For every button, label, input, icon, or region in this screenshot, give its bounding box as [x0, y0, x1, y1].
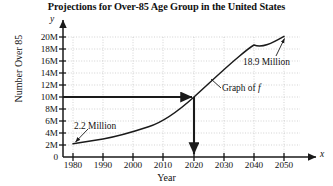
annotation-graph-of-f: Graph of f — [222, 83, 261, 93]
x-axis-symbol: x — [320, 149, 324, 159]
y-axis-symbol: y — [50, 14, 54, 24]
y-tick-10m: 10M — [18, 92, 58, 103]
y-tick-18m: 18M — [18, 44, 58, 55]
y-tick-8m: 8M — [18, 104, 58, 115]
annotation-2-2-million: 2.2 Million — [74, 121, 116, 131]
y-tick-14m: 14M — [18, 68, 58, 79]
y-tick-0: 0 — [18, 152, 58, 163]
x-tick-2050: 2050 — [264, 160, 304, 170]
y-tick-4m: 4M — [18, 128, 58, 139]
annotation-leader-graph-of-f — [211, 79, 221, 88]
chart-figure: Projections for Over-85 Age Group in the… — [0, 0, 333, 186]
annotation-graph-of-f-text: Graph of f — [222, 83, 261, 93]
annotation-18-9-million: 18.9 Million — [243, 57, 290, 67]
y-tick-12m: 12M — [18, 80, 58, 91]
y-tick-6m: 6M — [18, 116, 58, 127]
y-tick-16m: 16M — [18, 56, 58, 67]
y-axis-title: Number Over 85 — [13, 14, 24, 124]
y-tick-20m: 20M — [18, 32, 58, 43]
x-axis-title: Year — [0, 172, 333, 183]
y-tick-2m: 2M — [18, 140, 58, 151]
annotation-leader-end — [276, 39, 285, 57]
